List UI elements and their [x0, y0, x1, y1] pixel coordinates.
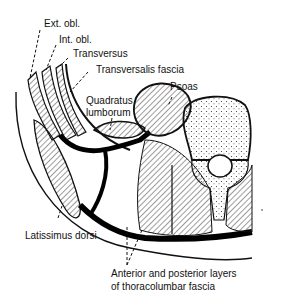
cross-section-illustration: [0, 0, 287, 301]
label-fascia-line2: of thoracolumbar fascia: [111, 281, 215, 292]
label-int-obl: Int. obl.: [59, 34, 92, 45]
spinal-canal: [208, 155, 232, 177]
label-quadratus-line1: Quadratus: [86, 95, 133, 106]
label-psoas: Psoas: [170, 81, 198, 92]
vertebral-body: [183, 97, 250, 160]
fascia-middle: [90, 150, 106, 215]
label-quadratus-line2: lumborum: [86, 107, 130, 118]
label-ext-obl: Ext. obl.: [44, 18, 80, 29]
label-fascia-line1: Anterior and posterior layers: [111, 268, 237, 279]
label-transversalis-fascia: Transversalis fascia: [96, 64, 184, 75]
label-transversus: Transversus: [73, 48, 128, 59]
label-latissimus-dorsi: Latissimus dorsi: [25, 230, 97, 241]
